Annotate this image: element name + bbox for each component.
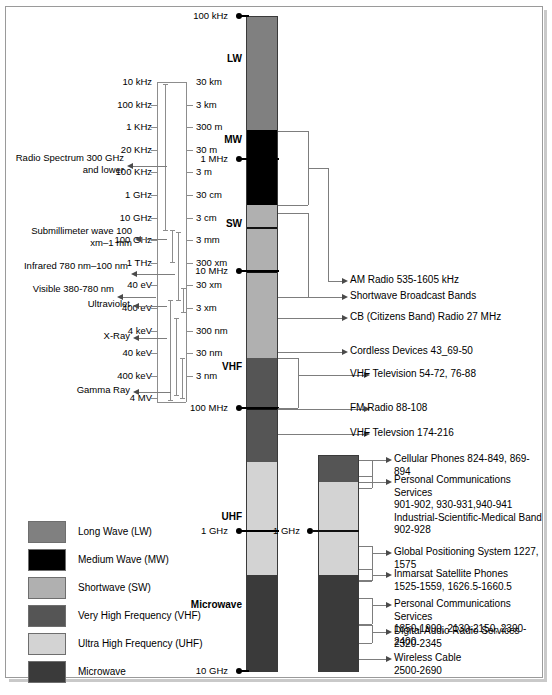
region-label-submillimeter: Submillimeter wave 100 xm–1 mm bbox=[14, 225, 132, 248]
spectrum-band-microwave[interactable] bbox=[246, 575, 278, 672]
arrow-line-ultraviolet bbox=[139, 306, 167, 307]
span-submillimeter bbox=[172, 230, 173, 262]
legend-label-5: Microwave bbox=[78, 661, 126, 683]
region-label-visible: Visible 380-780 nm bbox=[14, 283, 114, 295]
inm-top bbox=[359, 569, 372, 570]
ladder-rail-top bbox=[157, 82, 186, 83]
ladder-freq-tick-13 bbox=[151, 376, 157, 377]
arrowhead-cordless bbox=[342, 349, 348, 355]
ladder-freq-2: 1 KHz bbox=[88, 121, 152, 132]
pcs19-top bbox=[359, 598, 372, 599]
tick-label-100-khz: 100 kHz bbox=[166, 10, 228, 21]
region-label-gamma: Gamma Ray bbox=[14, 384, 130, 396]
ladder-freq-tick-9 bbox=[151, 285, 157, 286]
span-ultraviolet-cap-top bbox=[168, 300, 173, 301]
vhftv-top bbox=[278, 358, 298, 359]
ladder-wave-tick-4 bbox=[187, 172, 193, 173]
pcs19-bracket-v bbox=[372, 598, 373, 624]
ladder-wave-tick-5 bbox=[187, 195, 193, 196]
ladder-freq-tick-5 bbox=[151, 195, 157, 196]
spectrum-band-uhf[interactable] bbox=[246, 462, 278, 575]
pcs900-lead bbox=[372, 482, 386, 483]
band-name-vhf: VHF bbox=[182, 361, 242, 372]
ladder-wave-tick-13 bbox=[187, 376, 193, 377]
inset-segment-inset-mw[interactable] bbox=[318, 575, 359, 672]
mw-bracket-top bbox=[278, 131, 308, 132]
band-divider-0 bbox=[247, 227, 277, 229]
arrowhead-am-radio bbox=[342, 278, 348, 284]
arrowhead-cellular bbox=[386, 457, 392, 463]
span-visible-cap-bottom bbox=[181, 312, 186, 313]
vhftv-bracket-v bbox=[298, 358, 299, 408]
span-ultraviolet bbox=[170, 300, 171, 400]
span-xray-cap-bottom bbox=[174, 395, 179, 396]
tick-label-1-ghz: 1 GHz bbox=[166, 525, 228, 536]
callout-cb-radio: CB (Citizens Band) Radio 27 MHz bbox=[350, 311, 546, 324]
region-label-ultraviolet: Ultraviolet bbox=[14, 298, 130, 310]
legend-label-4: Ultra High Frequency (UHF) bbox=[78, 633, 202, 655]
inset-segment-inset-uhf2[interactable] bbox=[318, 531, 359, 575]
band-name-sw: SW bbox=[182, 218, 242, 229]
ladder-wave-tick-2 bbox=[187, 127, 193, 128]
arrowhead-dars bbox=[386, 629, 392, 635]
callout-vhf-tv-low: VHF Television 54-72, 76-88 bbox=[350, 368, 546, 381]
ladder-wave-tick-8 bbox=[187, 263, 193, 264]
arrowhead-ultraviolet bbox=[133, 303, 139, 309]
inset-segment-inset-uhf1[interactable] bbox=[318, 482, 359, 531]
span-radio-cap-top bbox=[163, 84, 168, 85]
legend-label-0: Long Wave (LW) bbox=[78, 521, 152, 543]
arrowhead-cb bbox=[342, 315, 348, 321]
callout-swbc: Shortwave Broadcast Bands bbox=[350, 290, 546, 303]
tick-label-10-mhz: 10 MHz bbox=[166, 265, 228, 276]
span-radio-cap-bottom bbox=[163, 230, 168, 231]
band-name-lw: LW bbox=[182, 53, 242, 64]
ladder-freq-tick-11 bbox=[151, 331, 157, 332]
arrow-line-gamma bbox=[139, 392, 171, 393]
gps-top bbox=[359, 546, 372, 547]
cell-top bbox=[359, 460, 372, 461]
band-name-uhf: UHF bbox=[182, 511, 242, 522]
tick-line bbox=[241, 15, 249, 17]
ladder-rail-left bbox=[157, 82, 158, 402]
arrow-line-xray bbox=[139, 338, 167, 339]
ladder-freq-tick-10 bbox=[151, 308, 157, 309]
spectrum-band-mw[interactable] bbox=[246, 130, 278, 205]
region-label-radio: Radio Spectrum 300 GHz and lower bbox=[14, 152, 124, 175]
arrow-line-radio bbox=[133, 166, 167, 167]
mw-mid-h bbox=[308, 168, 328, 169]
ladder-wave-tick-7 bbox=[187, 240, 193, 241]
tick-line bbox=[241, 670, 249, 672]
callout-vhf-tv-high: VHF Televsion 174-216 bbox=[350, 427, 546, 440]
ladder-freq-tick-14 bbox=[151, 398, 157, 399]
spectrum-band-lw[interactable] bbox=[246, 16, 278, 130]
span-gamma-cap-bottom bbox=[180, 398, 185, 399]
span-ultraviolet-cap-bottom bbox=[168, 400, 173, 401]
cell-bot bbox=[359, 482, 372, 483]
spectrum-band-vhf[interactable] bbox=[246, 358, 278, 462]
span-visible bbox=[183, 288, 184, 312]
callout-inmarsat: Inmarsat Satellite Phones 1525-1559, 162… bbox=[394, 568, 546, 593]
ladder-freq-6: 10 GHz bbox=[88, 212, 152, 223]
span-infrared-cap-top bbox=[176, 232, 181, 233]
callout-cordless: Cordless Devices 43_69-50 bbox=[350, 345, 546, 358]
legend-swatch-1 bbox=[28, 549, 66, 571]
span-visible-cap-top bbox=[181, 288, 186, 289]
arrowhead-pcs-900 bbox=[386, 479, 392, 485]
arrowhead-submillimeter bbox=[135, 236, 141, 242]
cell-lead bbox=[372, 460, 386, 461]
tick-label-100-mhz: 100 MHz bbox=[166, 402, 228, 413]
sw-bracket-bot bbox=[278, 297, 308, 298]
inset-segment-inset-vhf[interactable] bbox=[318, 455, 359, 482]
arrow-line-submillimeter bbox=[141, 239, 167, 240]
arrowhead-swbc bbox=[342, 294, 348, 300]
ladder-freq-tick-8 bbox=[151, 263, 157, 264]
arrowhead-gamma bbox=[133, 389, 139, 395]
arrowhead-pcs-1900 bbox=[386, 602, 392, 608]
pcs900-top bbox=[359, 476, 372, 477]
inset-tick-line bbox=[312, 530, 359, 532]
ladder-wave-tick-1 bbox=[187, 105, 193, 106]
callout-wireless: Wireless Cable 2500-2690 bbox=[394, 652, 546, 677]
dars-bracket-v bbox=[372, 625, 373, 643]
legend-swatch-4 bbox=[28, 633, 66, 655]
band-name-mw: MW bbox=[182, 134, 242, 145]
